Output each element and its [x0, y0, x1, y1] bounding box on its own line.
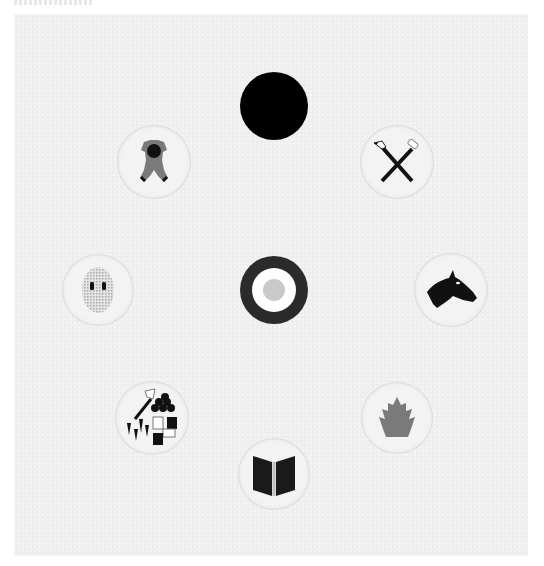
crossed-tools-icon: [372, 139, 422, 185]
fire-icon: [378, 397, 416, 439]
book-icon: [253, 452, 295, 496]
token-book[interactable]: [239, 439, 309, 509]
token-target-roundel[interactable]: [239, 255, 309, 325]
mask-icon: [81, 266, 115, 314]
token-doll[interactable]: [118, 126, 190, 198]
cropped-header-strip: [14, 0, 94, 5]
token-horse-head[interactable]: [415, 254, 487, 326]
doll-figure-icon: [134, 140, 174, 184]
token-fire[interactable]: [362, 383, 432, 453]
token-mask[interactable]: [63, 255, 133, 325]
resources-icon: [121, 387, 183, 449]
black-circle-icon: [239, 71, 309, 141]
target-roundel-icon: [239, 255, 309, 325]
token-resources[interactable]: [116, 382, 188, 454]
horse-head-icon: [423, 270, 479, 310]
token-black-circle[interactable]: [239, 71, 309, 141]
token-crossed-tools[interactable]: [361, 126, 433, 198]
